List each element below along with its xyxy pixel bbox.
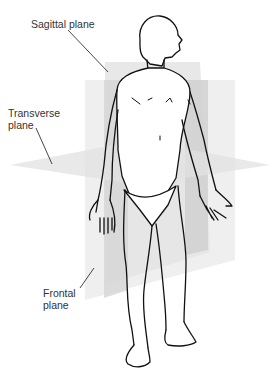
diagram-canvas [0,0,280,375]
foot-right [126,345,150,367]
head [140,16,182,66]
sagittal-leader [68,30,108,72]
anatomical-planes-diagram: Sagittal plane Transverse plane Frontal … [0,0,280,375]
label-transverse-plane: Transverse plane [8,107,60,131]
label-frontal-plane: Frontal plane [43,287,76,311]
foot-left [165,322,196,346]
label-sagittal-plane: Sagittal plane [31,18,95,30]
